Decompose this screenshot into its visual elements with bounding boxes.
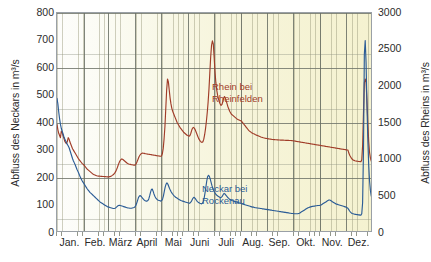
tick-left-0: 0 xyxy=(48,227,54,238)
tick-right-0: 0 xyxy=(378,227,384,238)
x-axis-label-11: Dez. xyxy=(348,236,370,248)
x-axis-label-9: Okt. xyxy=(296,236,315,248)
x-axis-label-3: April xyxy=(136,236,157,248)
x-axis-label-1: Feb. xyxy=(84,236,105,248)
tick-left-400: 400 xyxy=(36,117,54,128)
tick-right-1000: 1000 xyxy=(378,153,401,164)
y-axis-right-title: Abfluss des Rheins in m³/s xyxy=(419,13,431,233)
x-axis-label-8: Sep. xyxy=(269,236,291,248)
tick-left-700: 700 xyxy=(36,34,54,45)
tick-left-500: 500 xyxy=(36,89,54,100)
tick-left-800: 800 xyxy=(36,7,54,18)
x-axis-label-5: Juni xyxy=(190,236,209,248)
x-axis-label-10: Nov. xyxy=(322,236,343,248)
tick-right-1500: 1500 xyxy=(378,117,401,128)
tick-left-100: 100 xyxy=(36,199,54,210)
plot-area: Rhein bei Rheinfelden Neckar bei Rockena… xyxy=(56,12,372,232)
y-axis-right-ticks: 050010001500200025003000 xyxy=(378,0,412,262)
tick-left-200: 200 xyxy=(36,172,54,183)
tick-left-300: 300 xyxy=(36,144,54,155)
x-axis-label-6: Juli xyxy=(218,236,234,248)
x-axis-label-2: März xyxy=(109,236,132,248)
x-axis-labels: Jan.Feb.MärzAprilMaiJuniJuliAug.Sep.Okt.… xyxy=(56,236,372,254)
tick-right-500: 500 xyxy=(378,190,396,201)
tick-right-2000: 2000 xyxy=(378,80,401,91)
tick-right-3000: 3000 xyxy=(378,7,401,18)
line-rhein-bei-rheinfelden xyxy=(57,41,372,177)
y-axis-left-ticks: 0100200300400500600700800 xyxy=(20,0,54,262)
x-axis-label-7: Aug. xyxy=(242,236,264,248)
x-axis-label-0: Jan. xyxy=(59,236,79,248)
tick-right-2500: 2500 xyxy=(378,43,401,54)
x-axis-label-4: Mai xyxy=(165,236,182,248)
series-lines xyxy=(57,13,372,232)
tick-left-600: 600 xyxy=(36,62,54,73)
